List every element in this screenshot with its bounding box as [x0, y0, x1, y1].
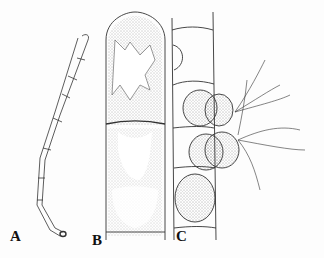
panel-a-filament: [37, 35, 89, 237]
illustration: [0, 0, 324, 258]
panel-b-cells: [106, 12, 165, 240]
figure: A B C: [0, 0, 324, 258]
panel-label-b: B: [92, 232, 102, 249]
panel-c-zoospores: [172, 12, 305, 240]
panel-label-a: A: [10, 228, 21, 245]
panel-label-c: C: [176, 228, 187, 245]
